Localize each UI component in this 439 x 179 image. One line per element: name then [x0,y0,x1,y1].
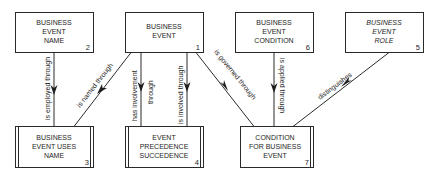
entity-label-line: ROLE [374,37,393,44]
entity-business-event-role[interactable]: BUSINESS EVENT ROLE 5 [346,13,424,53]
entity-label-line: BUSINESS [256,19,292,26]
entity-condition-for-business-event[interactable]: CONDITION FOR BUSINESS EVENT 7 [241,127,314,168]
arrowhead-icon [220,80,228,91]
entity-number: 2 [86,43,90,52]
er-diagram: BUSINESS EVENT NAME 2 BUSINESS EVENT 1 B… [0,0,439,179]
entity-number: 5 [416,43,420,52]
entity-label-line: EVENT [152,32,176,39]
entity-business-event-uses-name[interactable]: BUSINESS EVENT USES NAME 3 [16,127,94,168]
rel-is-applied-through[interactable]: is applied through [271,53,287,127]
rel-label: through [147,80,155,104]
rel-label: has involvement [131,70,138,121]
entity-label-line: CONDITION [254,37,293,44]
rel-is-involved-through[interactable]: is involved through [177,53,191,127]
entity-label-line: EVENT [42,28,66,35]
entity-label-line: NAME [44,152,65,159]
entity-number: 1 [196,43,200,52]
entity-business-event[interactable]: BUSINESS EVENT 1 [126,13,204,53]
entity-label-line: BUSINESS [36,134,72,141]
entity-label-line: EVENT [263,152,287,159]
entity-label-line: BUSINESS [146,23,182,30]
rel-distinguishes[interactable]: distinguishes [293,53,389,127]
entity-label-line: EVENT [372,28,396,35]
entity-label-line: FOR BUSINESS [249,143,301,150]
rel-label: is named through [75,62,115,110]
rel-is-governed-through[interactable]: is governed through [196,48,258,126]
entity-label-line: SUCCEDENCE [139,152,188,159]
rel-label: is involved through [177,66,185,124]
rel-has-involvement-through[interactable]: has involvement through [131,53,155,127]
entity-number: 7 [305,158,309,167]
entity-label-line: BUSINESS [366,19,402,26]
entity-number: 6 [306,43,310,52]
rel-label: is employed through [44,57,52,120]
entity-label-line: EVENT USES [32,143,77,150]
entity-number: 4 [195,158,199,167]
rel-is-named-through[interactable]: is named through [74,53,131,127]
entity-label-line: CONDITION [255,134,294,141]
entity-event-precedence-succedence[interactable]: EVENT PRECEDENCE SUCCEDENCE 4 [126,127,204,168]
entity-label-line: EVENT [262,28,286,35]
rel-label: is governed through [212,48,257,101]
rel-label: is applied through [278,58,286,113]
entity-business-event-name[interactable]: BUSINESS EVENT NAME 2 [16,13,94,53]
entity-label-line: NAME [44,37,65,44]
entity-number: 3 [85,158,89,167]
rel-label: distinguishes [316,71,354,102]
entity-label-line: BUSINESS [36,19,72,26]
rel-is-employed-through[interactable]: is employed through [44,53,58,127]
entity-label-line: PRECEDENCE [140,143,189,150]
entity-business-event-condition[interactable]: BUSINESS EVENT CONDITION 6 [236,13,314,53]
entity-label-line: EVENT [152,134,176,141]
